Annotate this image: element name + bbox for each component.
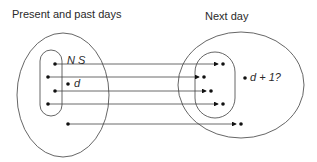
ns-subset: [40, 50, 62, 116]
d-label: d: [74, 77, 80, 89]
diagram: Present and past days Next day: [0, 0, 317, 162]
d-plus-1-label: d + 1?: [250, 71, 281, 83]
next-day-set: [178, 32, 304, 138]
present-past-set: [17, 33, 109, 157]
image-subset: [195, 52, 235, 118]
arrows: [48, 64, 236, 124]
dots: [46, 62, 247, 126]
ns-label: N S: [67, 54, 85, 66]
